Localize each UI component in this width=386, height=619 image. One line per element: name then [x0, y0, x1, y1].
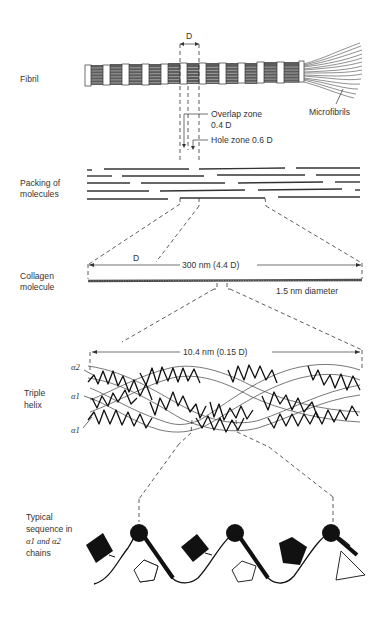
label-sequence-line2: sequence in [26, 524, 73, 534]
residue-triangle-open [336, 551, 365, 580]
residue-pentagon-filled [279, 537, 307, 565]
label-molecule-diameter: 1.5 nm diameter [276, 286, 338, 296]
packed-molecules [87, 168, 360, 199]
label-sequence-line1: Typical [26, 512, 53, 522]
label-chain-alpha1-b: α1 [71, 425, 80, 435]
label-sequence-line3: α1 and α2 [26, 536, 62, 546]
label-hole-zone: Hole zone 0.6 D [211, 135, 273, 145]
label-helix-line1: Triple [24, 388, 45, 398]
label-helix-line2: helix [24, 400, 42, 410]
label-overlap-zone-value: 0.4 D [211, 120, 232, 130]
residue-square-filled-2 [181, 534, 209, 562]
label-molecule-period-d: D [133, 253, 139, 263]
label-chain-alpha1-a: α1 [71, 391, 80, 401]
expansion-lines-helix [139, 420, 333, 522]
expansion-lines-packing [89, 198, 360, 264]
microfibrils-pointer [336, 89, 343, 104]
residue-pentagon-open-2 [232, 561, 256, 582]
fibril [85, 61, 305, 86]
label-microfibrils: Microfibrils [309, 107, 350, 117]
pointer-alpha1-b [83, 417, 92, 428]
period-marker [180, 42, 199, 160]
label-chain-alpha2: α2 [71, 362, 81, 372]
collagen-diagram: Fibril [0, 0, 386, 619]
label-packing-line1: Packing of [20, 178, 61, 188]
triple-helix [88, 364, 360, 432]
residue-square-filled-1 [86, 533, 113, 563]
label-molecule-length: 300 nm (4.4 D) [182, 260, 239, 270]
label-fibril: Fibril [20, 74, 39, 84]
label-period-d: D [186, 31, 192, 41]
label-packing-line2: molecules [20, 189, 59, 199]
label-overlap-zone: Overlap zone [211, 109, 262, 119]
residue-glycine-2 [226, 524, 244, 542]
amino-acid-chain [86, 524, 365, 584]
label-molecule-line1: Collagen [20, 271, 54, 281]
zone-pointers [182, 114, 208, 150]
label-helix-pitch: 10.4 nm (0.15 D) [183, 347, 248, 357]
residue-glycine-1 [130, 524, 148, 542]
residue-glycine-3 [322, 524, 340, 542]
microfibrils [304, 43, 362, 98]
collagen-molecule [88, 280, 362, 281]
label-sequence-line4: chains [26, 548, 51, 558]
label-molecule-line2: molecule [20, 282, 55, 292]
